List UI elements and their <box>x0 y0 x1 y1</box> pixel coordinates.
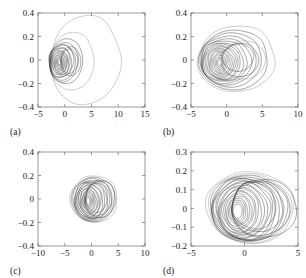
svg-text:5: 5 <box>89 109 94 119</box>
svg-text:5: 5 <box>296 248 301 258</box>
panel-a-plot: −5051015−0.4−0.200.20.4 <box>0 0 153 139</box>
panel-c: −10−50510−0.4−0.200.20.4 (c) <box>0 139 153 278</box>
svg-text:0.4: 0.4 <box>176 8 188 18</box>
svg-text:0: 0 <box>242 248 247 258</box>
svg-text:0: 0 <box>89 248 94 258</box>
svg-text:0.4: 0.4 <box>23 147 35 157</box>
svg-text:0.2: 0.2 <box>176 32 187 42</box>
svg-text:−5: −5 <box>186 109 196 119</box>
panel-b-label: (b) <box>163 128 174 138</box>
svg-text:5: 5 <box>260 109 265 119</box>
svg-text:15: 15 <box>141 109 151 119</box>
svg-text:0.4: 0.4 <box>23 8 35 18</box>
svg-text:10: 10 <box>141 248 151 258</box>
svg-text:−0.2: −0.2 <box>18 79 34 89</box>
svg-text:−0.4: −0.4 <box>18 241 35 251</box>
panel-c-plot: −10−50510−0.4−0.200.20.4 <box>0 139 153 278</box>
panel-d-label: (d) <box>163 267 174 277</box>
svg-text:−5: −5 <box>60 248 70 258</box>
panel-b: −50510−0.4−0.200.20.4 (b) <box>153 0 306 139</box>
svg-text:0: 0 <box>224 109 229 119</box>
svg-text:−0.2: −0.2 <box>171 79 187 89</box>
svg-text:0: 0 <box>30 194 35 204</box>
figure-four-panel-phase-portraits: −5051015−0.4−0.200.20.4 (a) −50510−0.4−0… <box>0 0 306 278</box>
svg-text:5: 5 <box>116 248 121 258</box>
svg-text:−5: −5 <box>33 109 43 119</box>
svg-text:10: 10 <box>294 109 304 119</box>
svg-text:−5: −5 <box>186 248 196 258</box>
panel-b-plot: −50510−0.4−0.200.20.4 <box>153 0 306 139</box>
panel-a: −5051015−0.4−0.200.20.4 (a) <box>0 0 153 139</box>
svg-text:−0.2: −0.2 <box>171 241 187 251</box>
panel-a-label: (a) <box>10 128 21 138</box>
panel-d: −505−0.2−0.100.10.20.3 (d) <box>153 139 306 278</box>
svg-text:0.2: 0.2 <box>23 32 34 42</box>
svg-text:0: 0 <box>30 55 35 65</box>
svg-text:−0.1: −0.1 <box>171 222 187 232</box>
svg-text:0.2: 0.2 <box>176 166 187 176</box>
svg-text:0.3: 0.3 <box>176 147 188 157</box>
svg-text:−0.4: −0.4 <box>171 102 188 112</box>
svg-text:−0.2: −0.2 <box>18 218 34 228</box>
svg-text:−0.4: −0.4 <box>18 102 35 112</box>
svg-text:0.2: 0.2 <box>23 171 34 181</box>
panel-c-label: (c) <box>10 267 21 277</box>
svg-text:10: 10 <box>114 109 124 119</box>
svg-text:0: 0 <box>63 109 68 119</box>
panel-d-plot: −505−0.2−0.100.10.20.3 <box>153 139 306 278</box>
svg-text:0.1: 0.1 <box>176 185 187 195</box>
svg-text:0: 0 <box>183 204 188 214</box>
svg-text:0: 0 <box>183 55 188 65</box>
